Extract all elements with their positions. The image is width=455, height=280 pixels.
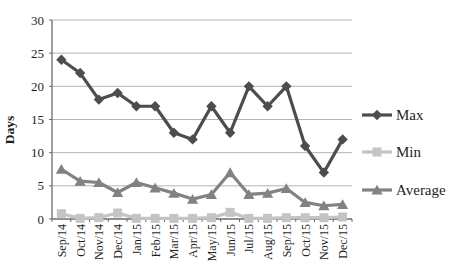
series-average <box>56 164 348 210</box>
series-line-max <box>61 60 342 173</box>
x-tick-label: Apr/15 <box>186 224 200 258</box>
marker-min <box>151 214 160 223</box>
x-tick-label: Sep/14 <box>55 224 69 257</box>
legend-label-min: Min <box>396 144 422 160</box>
y-tick-label: 30 <box>31 13 44 28</box>
marker-min <box>244 214 253 223</box>
marker-min <box>263 214 272 223</box>
legend-marker-max-icon <box>372 110 382 120</box>
series-line-average <box>61 169 342 205</box>
legend: MaxMinAverage <box>362 107 446 198</box>
marker-min <box>319 213 328 222</box>
marker-min <box>301 213 310 222</box>
marker-min <box>132 214 141 223</box>
legend-item-average: Average <box>362 182 446 198</box>
y-tick-label: 25 <box>31 46 44 61</box>
x-tick-label: Nov/14 <box>92 224 106 260</box>
x-tick-label: Jun/15 <box>224 224 238 256</box>
legend-label-average: Average <box>396 182 446 198</box>
x-tick-label: Sep/15 <box>280 224 294 257</box>
marker-min <box>76 214 85 223</box>
legend-item-min: Min <box>362 144 422 160</box>
x-tick-label: Dec/14 <box>111 224 125 259</box>
x-tick-label: Jan/15 <box>130 224 144 255</box>
series-line-min <box>61 212 342 218</box>
marker-min <box>282 213 291 222</box>
x-tick-label: Jul/15 <box>242 224 256 253</box>
marker-min <box>57 209 66 218</box>
y-tick-label: 15 <box>31 112 44 127</box>
y-axis-title: Days <box>2 116 17 145</box>
x-tick-label: Dec/15 <box>336 224 350 259</box>
marker-min <box>113 209 122 218</box>
marker-average <box>56 164 67 174</box>
x-tick-label: Nov/15 <box>317 224 331 260</box>
y-tick-label: 20 <box>31 79 44 94</box>
series-max <box>56 55 348 178</box>
axes <box>49 20 352 222</box>
line-chart: 051015202530Sep/14Oct/14Nov/14Dec/14Jan/… <box>0 0 455 280</box>
marker-min <box>94 213 103 222</box>
y-tick-label: 0 <box>38 212 45 227</box>
legend-item-max: Max <box>362 107 424 123</box>
legend-label-max: Max <box>396 107 424 123</box>
marker-min <box>207 213 216 222</box>
marker-min <box>169 214 178 223</box>
legend-marker-min-icon <box>373 148 382 157</box>
marker-min <box>188 214 197 223</box>
marker-average <box>225 167 236 177</box>
x-tick-label: Oct/14 <box>74 224 88 257</box>
marker-min <box>338 213 347 222</box>
x-tick-label: Mar/15 <box>167 224 181 259</box>
x-tick-label: Aug/15 <box>261 224 275 260</box>
marker-min <box>226 208 235 217</box>
y-tick-label: 5 <box>38 178 45 193</box>
y-tick-label: 10 <box>31 145 44 160</box>
x-axis-tick-labels: Sep/14Oct/14Nov/14Dec/14Jan/15Feb/15Mar/… <box>55 224 350 261</box>
x-tick-label: Oct/15 <box>299 224 313 257</box>
y-axis-tick-labels: 051015202530 <box>31 13 44 227</box>
scanned-chart-figure: 051015202530Sep/14Oct/14Nov/14Dec/14Jan/… <box>0 0 455 280</box>
x-tick-label: Feb/15 <box>149 224 163 257</box>
x-tick-label: May/15 <box>205 224 219 261</box>
